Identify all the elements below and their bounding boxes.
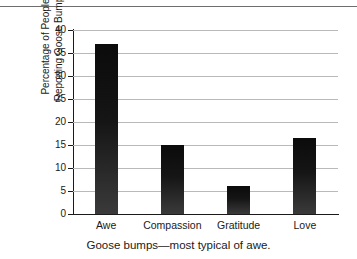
y-axis-tick-label: 25 — [44, 94, 66, 104]
figure-container: Percentage of People Reporting Goose Bum… — [0, 0, 357, 259]
y-axis-tick-label: 5 — [44, 186, 66, 196]
x-axis-tick-label: Love — [255, 219, 355, 231]
y-axis-tick-label: 40 — [44, 25, 66, 35]
y-axis-tick — [68, 191, 73, 192]
bar-gratitude — [227, 186, 250, 214]
x-axis-line — [73, 214, 339, 215]
y-axis-tick — [68, 145, 73, 146]
y-axis-tick-label: 30 — [44, 71, 66, 81]
y-axis-tick — [68, 76, 73, 77]
y-axis-tick — [68, 168, 73, 169]
gridline — [73, 30, 338, 31]
y-axis-tick — [68, 214, 73, 215]
bar-awe — [95, 44, 118, 214]
y-axis-tick — [68, 53, 73, 54]
y-axis-tick-label: 35 — [44, 48, 66, 58]
y-axis-tick-label: 20 — [44, 117, 66, 127]
bar-love — [293, 138, 316, 214]
plot-area — [73, 30, 338, 214]
y-axis-tick — [68, 99, 73, 100]
figure-caption: Goose bumps—most typical of awe. — [0, 238, 357, 252]
y-axis-tick-label: 0 — [44, 209, 66, 219]
y-axis-tick — [68, 30, 73, 31]
y-axis-tick-label: 15 — [44, 140, 66, 150]
y-axis-tick-label: 10 — [44, 163, 66, 173]
bar-compassion — [161, 145, 184, 214]
y-axis-tick — [68, 122, 73, 123]
y-axis-tick-labels: 0510152025303540 — [42, 30, 66, 214]
